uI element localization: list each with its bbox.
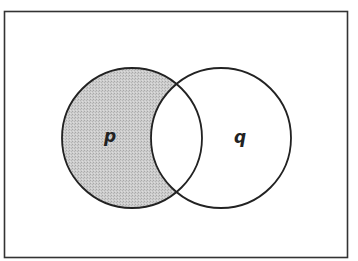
set-p-label: p — [104, 128, 116, 145]
set-q-label: q — [234, 129, 246, 146]
venn-diagram — [0, 0, 358, 261]
universe-rectangle — [5, 12, 348, 258]
